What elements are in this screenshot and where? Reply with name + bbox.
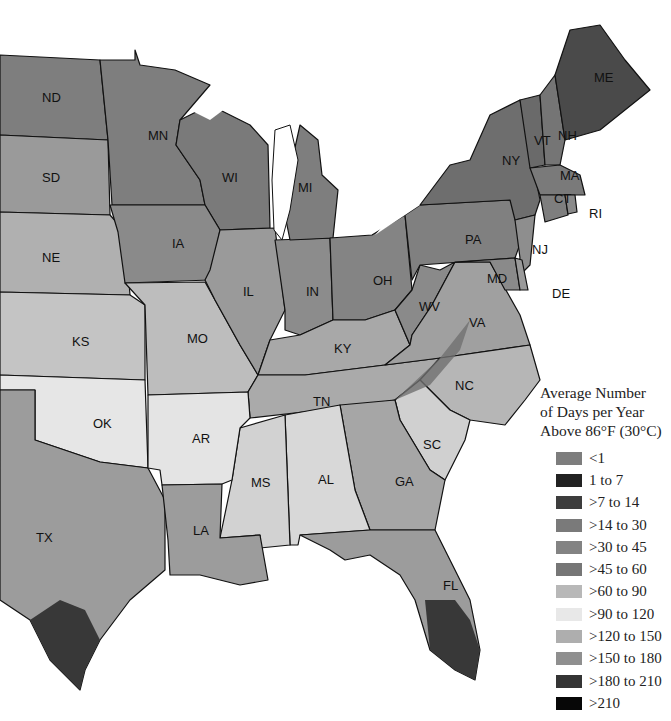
state-label-mi: MI [298, 180, 312, 195]
state-label-la: LA [193, 523, 209, 538]
state-label-wv: WV [419, 299, 440, 314]
state-label-vt: VT [534, 133, 551, 148]
state-label-ma: MA [560, 168, 580, 183]
legend-item: 1 to 7 [540, 469, 671, 491]
legend-title-line-3: Above 86°F (30°C) [540, 421, 671, 440]
legend-swatch [556, 474, 582, 487]
legend-label: 1 to 7 [589, 472, 623, 489]
legend-item: >14 to 30 [540, 514, 671, 536]
legend-title-line-2: of Days per Year [540, 402, 671, 421]
state-label-md: MD [487, 271, 507, 286]
legend-item: >210 [540, 692, 671, 714]
legend-swatch [556, 697, 582, 710]
state-label-nj: NJ [532, 242, 548, 257]
state-label-ky: KY [334, 341, 352, 356]
legend-swatch [556, 630, 582, 643]
legend-title: Average Number of Days per Year Above 86… [540, 383, 671, 440]
state-label-ga: GA [395, 474, 414, 489]
legend: Average Number of Days per Year Above 86… [540, 383, 671, 715]
state-label-ms: MS [251, 475, 271, 490]
legend-item: >180 to 210 [540, 670, 671, 692]
state-label-al: AL [318, 472, 334, 487]
legend-label: >180 to 210 [589, 673, 662, 690]
state-label-me: ME [594, 70, 614, 85]
state-label-va: VA [469, 315, 486, 330]
state-label-oh: OH [373, 273, 393, 288]
legend-swatch [556, 496, 582, 509]
state-ne [0, 212, 130, 295]
state-ny [420, 100, 540, 220]
legend-swatch [556, 563, 582, 576]
legend-swatch [556, 541, 582, 554]
state-label-nc: NC [455, 378, 474, 393]
legend-items: <11 to 7>7 to 14>14 to 30>30 to 45>45 to… [540, 447, 671, 715]
legend-label: >7 to 14 [589, 494, 639, 511]
legend-item: >30 to 45 [540, 536, 671, 558]
state-ia [110, 205, 220, 283]
legend-label: >14 to 30 [589, 517, 647, 534]
legend-item: >7 to 14 [540, 492, 671, 514]
state-label-ar: AR [192, 431, 210, 446]
state-label-sd: SD [42, 170, 60, 185]
state-label-mo: MO [187, 331, 208, 346]
legend-label: <1 [589, 450, 605, 467]
state-label-fl: FL [443, 578, 458, 593]
state-label-ks: KS [72, 334, 90, 349]
state-label-ok: OK [93, 416, 112, 431]
state-label-in: IN [306, 284, 319, 299]
state-in [275, 238, 333, 335]
legend-swatch [556, 452, 582, 465]
legend-item: >60 to 90 [540, 581, 671, 603]
legend-swatch [556, 519, 582, 532]
state-label-mn: MN [148, 128, 168, 143]
state-label-ri: RI [589, 206, 602, 221]
legend-label: >210 [589, 695, 620, 712]
state-label-pa: PA [465, 232, 482, 247]
legend-item: >90 to 120 [540, 603, 671, 625]
legend-item: >45 to 60 [540, 558, 671, 580]
legend-label: >30 to 45 [589, 539, 647, 556]
state-label-tn: TN [313, 394, 330, 409]
legend-title-line-1: Average Number [540, 383, 671, 402]
legend-swatch [556, 652, 582, 665]
legend-label: >120 to 150 [589, 628, 662, 645]
state-label-ny: NY [502, 153, 520, 168]
legend-swatch [556, 585, 582, 598]
state-label-nd: ND [42, 90, 61, 105]
legend-item: >120 to 150 [540, 625, 671, 647]
state-label-il: IL [243, 284, 254, 299]
legend-label: >45 to 60 [589, 561, 647, 578]
state-label-tx: TX [36, 530, 53, 545]
legend-item: >150 to 180 [540, 648, 671, 670]
legend-label: >150 to 180 [589, 650, 662, 667]
legend-item: <1 [540, 447, 671, 469]
legend-label: >60 to 90 [589, 583, 647, 600]
state-label-ne: NE [42, 250, 60, 265]
legend-label: >90 to 120 [589, 606, 654, 623]
state-label-ia: IA [172, 236, 185, 251]
state-label-sc: SC [423, 437, 441, 452]
legend-swatch [556, 608, 582, 621]
state-label-nh: NH [558, 128, 577, 143]
state-label-wi: WI [222, 170, 238, 185]
legend-swatch [556, 675, 582, 688]
state-label-ct: CT [554, 191, 571, 206]
state-label-de: DE [552, 286, 570, 301]
